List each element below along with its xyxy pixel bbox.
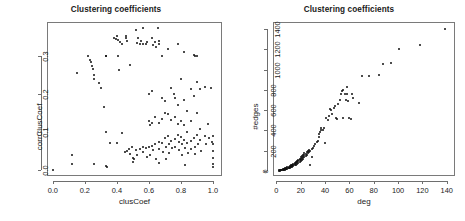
- scatter-point: [151, 145, 153, 147]
- scatter-point: [118, 69, 120, 71]
- scatter-point: [154, 143, 156, 145]
- scatter-point: [323, 127, 325, 129]
- scatter-point: [158, 43, 160, 45]
- scatter-point: [200, 150, 202, 152]
- scatter-point: [183, 51, 185, 53]
- scatter-point: [151, 122, 153, 124]
- scatter-point: [212, 166, 214, 168]
- scatter-point: [186, 131, 188, 133]
- scatter-point: [318, 136, 320, 138]
- scatter-point: [398, 48, 400, 50]
- scatter-point: [180, 136, 182, 138]
- x-axis-title-right: deg: [357, 197, 370, 206]
- scatter-point: [177, 123, 179, 125]
- scatter-point: [145, 43, 147, 45]
- scatter-point: [319, 131, 321, 133]
- y-axis-tick-label: 1000: [273, 62, 282, 78]
- scatter-point: [91, 65, 93, 67]
- x-axis-tick: [447, 181, 448, 184]
- scatter-point: [167, 113, 169, 115]
- scatter-point: [352, 97, 354, 99]
- scatter-point: [174, 116, 176, 118]
- scatter-point: [152, 44, 154, 46]
- scatter-point: [154, 116, 156, 118]
- scatter-point: [90, 61, 92, 63]
- x-axis-tick: [53, 181, 54, 184]
- scatter-point: [309, 164, 311, 166]
- x-axis-tick-label: 60: [345, 186, 353, 195]
- scatter-point: [149, 154, 151, 156]
- scatter-point: [135, 149, 137, 151]
- scatter-point: [158, 141, 160, 143]
- scatter-point: [196, 81, 198, 83]
- scatter-point: [168, 143, 170, 145]
- scatter-point: [100, 87, 102, 89]
- y-axis-tick: [264, 90, 267, 91]
- scatter-point: [314, 143, 316, 145]
- scatter-point: [133, 158, 135, 160]
- scatter-point: [193, 95, 195, 97]
- scatter-point: [368, 75, 370, 77]
- scatter-point: [98, 82, 100, 84]
- scatter-point: [180, 78, 182, 80]
- scatter-point: [346, 93, 348, 95]
- panel-title-left: Clustering coefficients: [0, 5, 232, 14]
- plot-area-right: [273, 22, 455, 176]
- x-axis-tick: [181, 181, 182, 184]
- scatter-point: [161, 55, 163, 57]
- y-axis-tick-label: 0.2: [41, 89, 50, 99]
- x-axis-tick: [276, 181, 277, 184]
- y-axis-tick: [264, 110, 267, 111]
- scatter-point: [177, 43, 179, 45]
- y-axis-title-right: #edges: [251, 104, 260, 130]
- scatter-point: [165, 146, 167, 148]
- scatter-point: [196, 55, 198, 57]
- y-axis-tick-label: 0: [261, 169, 270, 173]
- scatter-point: [173, 93, 175, 95]
- scatter-point: [142, 146, 144, 148]
- x-axis-tick-label: 80: [370, 186, 378, 195]
- scatter-point: [117, 55, 119, 57]
- x-axis-tick: [117, 181, 118, 184]
- x-axis-tick: [374, 181, 375, 184]
- scatter-point: [337, 103, 339, 105]
- scatter-point: [161, 142, 163, 144]
- x-axis-tick-label: 40: [321, 186, 329, 195]
- scatter-point: [116, 142, 118, 144]
- x-axis-tick-label: 0.4: [112, 186, 122, 195]
- x-axis-tick: [149, 181, 150, 184]
- scatter-point: [199, 128, 201, 130]
- scatter-point: [164, 100, 166, 102]
- scatter-point: [181, 143, 183, 145]
- y-axis-tick-label: 1400: [273, 21, 282, 37]
- scatter-point: [174, 97, 176, 99]
- scatter-point: [174, 138, 176, 140]
- scatter-point: [155, 158, 157, 160]
- scatter-point: [187, 152, 189, 154]
- scatter-point: [339, 99, 341, 101]
- scatter-point: [183, 124, 185, 126]
- scatter-point: [204, 86, 206, 88]
- scatter-point: [196, 134, 198, 136]
- scatter-point: [358, 102, 360, 104]
- scatter-point: [350, 118, 352, 120]
- scatter-point: [205, 143, 207, 145]
- scatter-point: [158, 148, 160, 150]
- x-axis-tick-label: 0: [274, 186, 278, 195]
- y-axis-tick: [264, 70, 267, 71]
- x-axis-line: [53, 181, 213, 182]
- scatter-point: [204, 135, 206, 137]
- y-axis-tick: [264, 151, 267, 152]
- x-axis-title-left: clusCoef: [119, 197, 150, 206]
- scatter-point: [132, 161, 134, 163]
- scatter-point: [313, 145, 315, 147]
- y-axis-tick-label: 0.0: [41, 166, 50, 176]
- x-axis-tick-label: 20: [297, 186, 305, 195]
- scatter-point: [190, 148, 192, 150]
- scatter-point: [146, 41, 148, 43]
- scatter-point: [93, 163, 95, 165]
- scatter-point: [212, 163, 214, 165]
- scatter-point: [161, 118, 163, 120]
- scatter-point: [93, 74, 95, 76]
- scatter-point: [311, 148, 313, 150]
